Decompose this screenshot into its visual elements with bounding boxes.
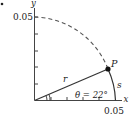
- arc-length-diagram: 0.05 y x 0.05 P s r θ = 22°: [0, 0, 129, 132]
- x-max-label: 0.05: [104, 106, 124, 116]
- point-p-label: P: [110, 58, 118, 69]
- y-axis-label: y: [30, 0, 36, 8]
- x-axis-label: x: [124, 94, 129, 104]
- radius-label: r: [63, 74, 68, 84]
- point-p-marker: [105, 66, 110, 71]
- angle-label: θ = 22°: [75, 90, 108, 100]
- arc-length-label: s: [117, 80, 122, 90]
- angle-arc-outer: [49, 94, 50, 100]
- arc-length-s: [108, 69, 116, 101]
- figure-marker: [1, 3, 4, 6]
- y-max-label: 0.05: [13, 12, 33, 22]
- dashed-arc: [35, 17, 109, 69]
- y-axis-ticks: [35, 17, 39, 84]
- angle-arc-inner: [46, 96, 47, 101]
